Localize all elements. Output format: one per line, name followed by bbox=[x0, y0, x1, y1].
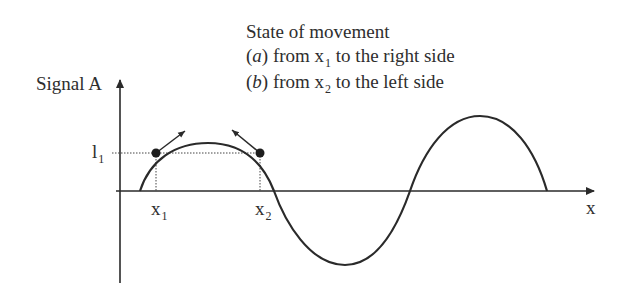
x2-sub: 2 bbox=[266, 209, 272, 223]
legend-item-b-suffix: to the left side bbox=[331, 71, 444, 92]
level-l1-letter: l bbox=[92, 141, 97, 162]
x1-sub: 1 bbox=[162, 209, 168, 223]
legend-item-a-suffix: to the right side bbox=[331, 45, 454, 66]
legend-title: State of movement bbox=[246, 22, 390, 41]
level-l1-sub: 1 bbox=[98, 152, 104, 166]
level-l1-label: l1 bbox=[92, 142, 104, 161]
legend-item-a: (a) from x1 to the right side bbox=[246, 46, 455, 65]
legend-item-a-sub: 1 bbox=[325, 56, 331, 70]
x1-label: x1 bbox=[151, 199, 168, 218]
arrow-right-from-x1 bbox=[156, 131, 185, 153]
x2-label: x2 bbox=[255, 199, 272, 218]
point-x2 bbox=[256, 149, 265, 158]
arrow-left-from-x2 bbox=[232, 130, 260, 153]
x-axis-label: x bbox=[586, 198, 596, 217]
x2-letter: x bbox=[255, 198, 265, 219]
legend-item-a-prefix: from x bbox=[273, 45, 324, 66]
x1-letter: x bbox=[151, 198, 161, 219]
legend-item-b-prefix: from x bbox=[273, 71, 324, 92]
point-x1 bbox=[152, 149, 161, 158]
legend-item-a-tag: a bbox=[252, 45, 262, 66]
legend-item-b-sub: 2 bbox=[325, 82, 331, 96]
legend-item-b: (b) from x2 to the left side bbox=[246, 72, 444, 91]
y-axis-label: Signal A bbox=[36, 74, 102, 93]
legend-item-b-tag: b bbox=[252, 71, 262, 92]
